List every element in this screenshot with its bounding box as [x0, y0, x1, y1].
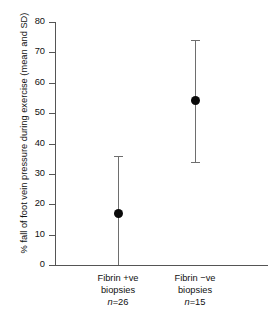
y-tick-label: 10	[5, 230, 45, 239]
y-tick-label: 50	[5, 108, 45, 117]
y-axis-line	[55, 22, 56, 265]
y-tick-label: 0	[5, 260, 45, 269]
y-tick-mark	[49, 144, 55, 145]
x-category-line1: Fibrin −ve	[147, 272, 243, 284]
x-axis-line	[55, 265, 268, 266]
y-tick-mark	[49, 174, 55, 175]
error-bar-lower-cap	[191, 162, 200, 163]
mean-marker-dot	[191, 96, 200, 105]
y-axis-title: % fall of foot vein pressure during exer…	[19, 3, 29, 263]
y-tick-label: 40	[5, 139, 45, 148]
y-tick-mark	[49, 204, 55, 205]
x-category-line2: biopsies	[147, 284, 243, 296]
x-category-label: Fibrin −vebiopsiesn=15	[147, 272, 243, 309]
y-tick-mark	[49, 265, 55, 266]
x-category-sample-size: n=15	[147, 296, 243, 308]
y-tick-label: 70	[5, 47, 45, 56]
y-tick-mark	[49, 235, 55, 236]
y-tick-label: 30	[5, 169, 45, 178]
sample-size-value: =15	[190, 297, 206, 307]
mean-marker-dot	[114, 209, 123, 218]
error-bar-upper-cap	[114, 156, 123, 157]
error-bar-upper-cap	[191, 40, 200, 41]
y-tick-mark	[49, 83, 55, 84]
y-tick-mark	[49, 22, 55, 23]
y-tick-label: 60	[5, 78, 45, 87]
sample-size-value: =26	[113, 297, 129, 307]
y-tick-label: 80	[5, 17, 45, 26]
y-tick-mark	[49, 52, 55, 53]
y-tick-label: 20	[5, 199, 45, 208]
chart-figure: % fall of foot vein pressure during exer…	[0, 0, 271, 322]
y-tick-mark	[49, 113, 55, 114]
